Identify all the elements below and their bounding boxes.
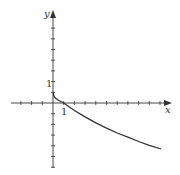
y-axis-label: y bbox=[43, 8, 50, 19]
y-tick-label-1: 1 bbox=[46, 78, 52, 89]
x-axis-label: x bbox=[165, 104, 171, 115]
function-curve bbox=[53, 92, 161, 149]
chart-canvas: y x 1 1 bbox=[0, 0, 180, 175]
x-tick-label-1: 1 bbox=[61, 106, 67, 117]
tick-marks bbox=[21, 17, 160, 167]
